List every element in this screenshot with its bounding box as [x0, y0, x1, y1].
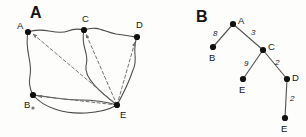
edge-weight-c-e: 9 — [244, 59, 249, 68]
tree-node-label-e1: E — [239, 84, 245, 95]
dashed-edge-e-b — [38, 96, 117, 105]
tree-node-label-b: B — [209, 52, 215, 63]
tree-node-label-c: C — [268, 41, 275, 52]
node-d[interactable] — [134, 34, 140, 40]
panel-b-label: B — [196, 8, 208, 25]
tree-node-label-a: A — [238, 15, 245, 26]
tree-node-e2[interactable] — [282, 115, 288, 121]
node-c[interactable] — [81, 27, 87, 33]
ink-speck — [31, 106, 34, 109]
edge-b-e-lower — [33, 95, 117, 113]
node-label-a: A — [17, 20, 24, 31]
edge-weight-c-d: 2 — [274, 58, 280, 67]
edge-weight-a-c: 3 — [251, 28, 256, 37]
tree-node-e1[interactable] — [240, 76, 246, 82]
node-b[interactable] — [30, 92, 36, 98]
tree-node-d[interactable] — [284, 76, 290, 82]
figure-canvas: A A C D B E — [0, 0, 306, 137]
edge-a-c — [28, 29, 84, 32]
panel-a-label: A — [30, 4, 42, 21]
tree-node-label-e2: E — [281, 123, 287, 134]
tree-node-b[interactable] — [210, 44, 216, 50]
tree-node-a[interactable] — [230, 21, 236, 27]
dashed-edge-e-c — [86, 34, 117, 105]
node-a[interactable] — [25, 29, 31, 35]
edge-weight-d-e: 2 — [289, 94, 295, 103]
panel-b-group: B A B C E D E 8 3 9 2 2 — [196, 8, 299, 134]
tree-node-c[interactable] — [260, 47, 266, 53]
node-e[interactable] — [114, 102, 120, 108]
tree-node-label-d: D — [292, 72, 299, 83]
panel-a-group: A A C D B E — [17, 4, 143, 120]
edge-c-d — [84, 28, 137, 37]
node-label-b: B — [24, 99, 30, 110]
dashed-edge-e-a — [33, 34, 117, 105]
tree-edge-d-e — [285, 79, 287, 118]
node-label-e: E — [120, 109, 126, 120]
edge-a-b — [27, 32, 33, 95]
figure-svg: A A C D B E — [0, 0, 306, 137]
node-label-d: D — [136, 19, 143, 30]
tree-edge-a-c — [233, 24, 263, 50]
edge-weight-a-b: 8 — [213, 29, 218, 38]
node-label-c: C — [82, 13, 89, 24]
